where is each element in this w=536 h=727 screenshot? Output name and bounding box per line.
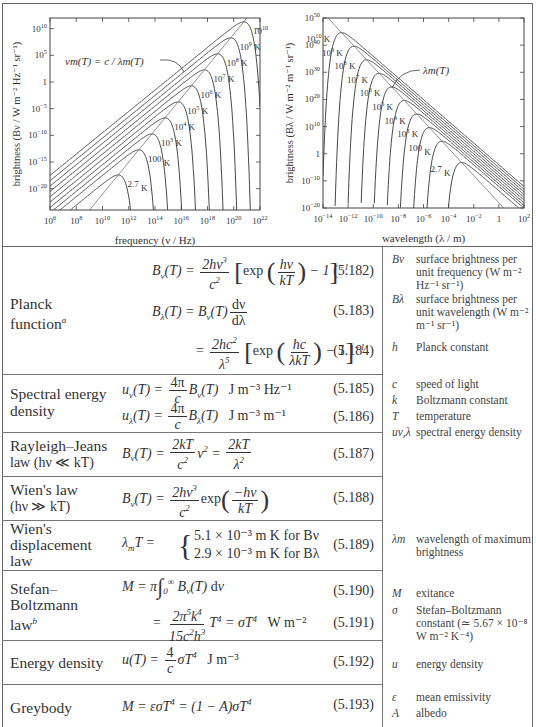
svg-text:2.7 K: 2.7 K — [127, 179, 148, 193]
row-wien-displacement-law: Wien's displacement law λmT = { 5.1 × 10… — [2, 521, 382, 571]
wavelength-brightness-plot: 10−1410−1210−1010−810−610−410−2110210501… — [268, 0, 536, 246]
column-divider — [382, 247, 383, 727]
svg-text:1012: 1012 — [121, 214, 136, 226]
row-wiens-law: Wien's law (hν ≫ kT) Bν(T) = 2hν3c2exp(−… — [2, 477, 382, 521]
svg-text:10−4: 10−4 — [441, 212, 458, 224]
svg-text:10−10: 10−10 — [364, 212, 383, 224]
equation-5-187: Bν(T) = 2kTc2ν2 = 2kTλ2 — [122, 437, 253, 472]
svg-text:10−10: 10−10 — [301, 174, 320, 186]
svg-text:106 K: 106 K — [360, 86, 381, 98]
svg-text:10−15: 10−15 — [28, 155, 47, 167]
equation-5-191: = 2π5k415c2h3T4 = σT4 W m⁻² — [152, 605, 307, 643]
plot-frame — [50, 18, 260, 210]
row-label: Spectral energy density — [10, 385, 107, 419]
svg-text:10−10: 10−10 — [28, 128, 47, 140]
svg-text:100 K: 100 K — [409, 143, 432, 157]
svg-text:10−2: 10−2 — [466, 212, 482, 224]
plots-section: 1061081010101210141016101810201022101010… — [0, 0, 536, 246]
peak-locus-line — [323, 13, 524, 230]
row-label: Rayleigh–Jeans law (hν ≪ kT) — [10, 437, 107, 471]
curves — [323, 13, 524, 230]
svg-text:104 K: 104 K — [385, 114, 406, 126]
x-axis-label: frequency (ν / Hz) — [115, 234, 196, 246]
svg-text:1022: 1022 — [252, 214, 267, 226]
row-label: Planck functiona — [10, 295, 66, 332]
x-axis-label: wavelength (λ / m) — [382, 232, 466, 245]
svg-text:10−20: 10−20 — [301, 201, 320, 213]
row-spectral-energy-density: Spectral energy density uν(T) = 4πcBν(T)… — [2, 375, 382, 433]
svg-text:1050: 1050 — [305, 11, 320, 23]
equation-5-188: Bν(T) = 2hν3c2exp(−hνkT) — [122, 481, 269, 519]
svg-text:10−20: 10−20 — [28, 182, 47, 194]
svg-text:103 K: 103 K — [397, 127, 418, 139]
planck-curve — [400, 114, 524, 208]
svg-text:1014: 1014 — [147, 214, 163, 226]
svg-text:108 K: 108 K — [335, 59, 356, 71]
row-label: Wien's law (hν ≫ kT) — [10, 481, 78, 515]
planck-curve — [50, 22, 260, 176]
peak-frequency-annotation: νm(T) = c / λm(T) — [65, 55, 144, 68]
svg-text:100 K: 100 K — [148, 154, 171, 168]
svg-text:10−8: 10−8 — [391, 212, 407, 224]
row-label: Energy density — [10, 654, 103, 671]
svg-text:1010 K: 1010 K — [253, 24, 268, 36]
equation-5-193: M = εσT4 = (1 − A)σT4 — [122, 697, 252, 715]
planck-curve — [51, 175, 132, 226]
svg-text:1030: 1030 — [305, 65, 320, 77]
svg-text:1020: 1020 — [305, 92, 320, 104]
svg-text:106 K: 106 K — [200, 88, 221, 100]
svg-text:108: 108 — [70, 214, 82, 226]
equation-5-190: M = π∫0∞ Bν(T) dν — [122, 577, 224, 597]
row-label: Stefan– Boltzmann lawb — [10, 581, 78, 633]
svg-text:105 K: 105 K — [372, 100, 393, 112]
row-greybody: Greybody M = εσT4 = (1 − A)σT4 (5.193) — [2, 685, 382, 727]
y-axis-label: brightness (Bν / W m⁻² Hz⁻¹ sr⁻¹) — [11, 41, 23, 186]
equation-5-186: uλ(T) = 4πcBλ(T) J m⁻³ m⁻¹ — [122, 401, 286, 432]
svg-text:1: 1 — [316, 149, 321, 159]
row-label: Greybody — [10, 699, 72, 716]
svg-text:106: 106 — [44, 214, 56, 226]
peak-wavelength-annotation: λm(T) — [422, 64, 449, 77]
svg-text:1020: 1020 — [226, 214, 241, 226]
svg-text:103 K: 103 K — [161, 136, 182, 148]
svg-text:1010: 1010 — [32, 22, 47, 34]
row-rayleigh-jeans-law: Rayleigh–Jeans law (hν ≪ kT) Bν(T) = 2kT… — [2, 433, 382, 477]
svg-text:102: 102 — [518, 212, 530, 224]
equation-5-183: Bλ(T) = Bν(T)dνdλ — [152, 297, 250, 328]
symbol-glossary: Bνsurface brightness per unit frequency … — [384, 247, 533, 727]
svg-text:1010: 1010 — [305, 120, 320, 132]
svg-text:1016: 1016 — [174, 214, 189, 226]
planck-curve — [50, 118, 182, 224]
annotation-pointer — [160, 60, 184, 72]
planck-curve — [50, 102, 196, 220]
svg-text:109 K: 109 K — [322, 46, 343, 58]
frequency-brightness-plot: 1061081010101210141016101810201022101010… — [0, 0, 268, 246]
svg-text:10−6: 10−6 — [416, 212, 432, 224]
svg-text:10−12: 10−12 — [339, 212, 358, 224]
svg-text:107 K: 107 K — [347, 73, 368, 85]
svg-text:104 K: 104 K — [174, 120, 195, 132]
planck-curve — [348, 60, 524, 204]
equation-5-192: u(T) = 4cσT4 J m⁻³ — [122, 645, 239, 676]
svg-text:2.7 K: 2.7 K — [430, 164, 451, 178]
row-energy-density: Energy density u(T) = 4cσT4 J m⁻³ (5.192… — [2, 641, 382, 685]
svg-text:107 K: 107 K — [214, 72, 235, 84]
svg-text:10−5: 10−5 — [31, 102, 47, 114]
row-stefan-boltzmann-law: Stefan– Boltzmann lawb M = π∫0∞ Bν(T) dν… — [2, 571, 382, 641]
planck-curve — [50, 70, 223, 217]
svg-text:10−14: 10−14 — [314, 212, 334, 224]
svg-text:105: 105 — [35, 48, 47, 60]
row-label: Wien's displacement law — [10, 521, 92, 569]
row-planck-function: Planck functiona Bν(T) = 2hν3c2 [exp (hν… — [2, 247, 382, 375]
equation-5-182: Bν(T) = 2hν3c2 [exp (hνkT) − 1]−1 — [152, 253, 349, 291]
svg-text:1: 1 — [497, 214, 502, 224]
svg-text:109 K: 109 K — [240, 40, 261, 52]
planck-curve — [50, 86, 210, 218]
formula-table: Planck functiona Bν(T) = 2hν3c2 [exp (hν… — [2, 246, 533, 727]
y-axis-label: brightness (Bλ / W m⁻² m⁻¹ sr⁻¹) — [284, 42, 296, 183]
equation-5-189: λmT = — [122, 535, 155, 553]
planck-curve — [387, 101, 524, 206]
svg-text:1010: 1010 — [95, 214, 110, 226]
svg-text:108 K: 108 K — [227, 56, 248, 68]
svg-text:105 K: 105 K — [187, 104, 208, 116]
